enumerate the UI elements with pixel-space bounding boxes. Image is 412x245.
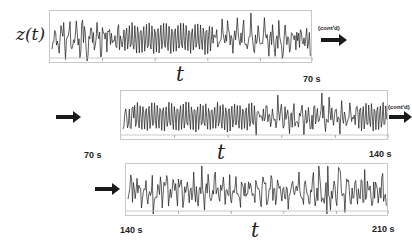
start-time-label-3: 140 s [120, 225, 143, 235]
plot-frame-3 [125, 163, 388, 216]
x-axis-label: t [217, 140, 225, 164]
end-time-label-2: 140 s [369, 149, 392, 159]
end-time-label-1: 70 s [303, 74, 321, 84]
end-time-label-3: 210 s [372, 224, 395, 234]
continued-label-1: (cont'd) [318, 25, 340, 31]
start-arrow-icon-2 [56, 115, 74, 119]
time-series-line-3 [126, 164, 389, 217]
y-axis-label: z(t) [16, 24, 45, 44]
continued-label-2: (cont'd) [388, 104, 410, 110]
x-axis-label: t [251, 218, 259, 242]
start-arrow-icon-3 [95, 187, 113, 191]
plot-frame-2 [120, 90, 388, 140]
time-series-line-2 [121, 91, 389, 141]
start-time-label-2: 70 s [84, 150, 102, 160]
x-axis-label: t [176, 62, 184, 86]
time-series-line-1 [50, 11, 313, 64]
continue-arrow-icon-2 [389, 115, 405, 119]
continue-arrow-icon-1 [321, 38, 340, 42]
plot-frame-1 [49, 10, 312, 63]
